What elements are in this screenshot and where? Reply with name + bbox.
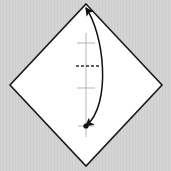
origami-fold-figure (0, 0, 171, 171)
reference-point (83, 123, 88, 128)
figure-canvas (0, 0, 171, 171)
